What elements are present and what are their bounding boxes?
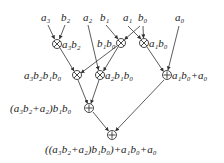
input-b2: b₂ <box>61 11 71 23</box>
edge-b0-m2 <box>125 26 141 40</box>
diagram-canvas: a₃ b₂ a₂ b₁ a₁ b₀ a₀ a₃b₂ b₁b₀ a₁b₀ a₃b₂… <box>0 0 224 163</box>
edge-s1-s3 <box>116 80 165 131</box>
edge-a3-m1 <box>48 25 55 39</box>
node-label-s3: ((a₃b₂+a₂)b₁b₀)+a₁b₀+a₀ <box>45 143 157 156</box>
input-a3: a₃ <box>41 11 51 23</box>
add-node-s1: a₁b₀+a₀ <box>163 69 208 81</box>
multiply-node-m4: a₃b₂b₁b₀ <box>24 69 82 81</box>
input-a0: a₀ <box>175 11 185 23</box>
add-node-s3: ((a₃b₂+a₂)b₁b₀)+a₁b₀+a₀ <box>45 131 157 157</box>
add-node-s2: (a₃b₂+a₂)b₁b₀ <box>10 102 94 115</box>
input-b1: b₁ <box>100 11 110 23</box>
node-label-s1: a₁b₀+a₀ <box>172 69 208 81</box>
edge-b2-m1 <box>60 25 66 39</box>
multiply-node-m5: a₂b₁b₀ <box>96 69 134 81</box>
edge-m4-s2 <box>78 80 88 104</box>
edge-a1-m3 <box>128 26 141 39</box>
node-label-m3: a₁b₀ <box>149 37 168 49</box>
edge-b0-m3 <box>143 26 144 38</box>
node-label-m1: a₃b₂ <box>62 38 81 50</box>
multiply-node-m2: b₁b₀ <box>97 37 126 49</box>
edge-s2-s3 <box>93 112 109 131</box>
input-a2: a₂ <box>83 11 93 23</box>
input-b0: b₀ <box>138 11 148 23</box>
expression-tree-diagram: a₃ b₂ a₂ b₁ a₁ b₀ a₀ a₃b₂ b₁b₀ a₁b₀ a₃b₂… <box>0 0 224 163</box>
node-label-m5: a₂b₁b₀ <box>105 69 133 81</box>
edge-a0-s1 <box>168 26 179 70</box>
node-label-s2: (a₃b₂+a₂)b₁b₀ <box>10 102 72 115</box>
edge-m3-s1 <box>147 47 164 72</box>
edge-m5-s2 <box>91 80 99 104</box>
input-a1: a₁ <box>123 11 133 23</box>
node-label-m2: b₁b₀ <box>97 37 116 49</box>
input-labels: a₃ b₂ a₂ b₁ a₁ b₀ a₀ <box>41 11 185 23</box>
multiply-node-m3: a₁b₀ <box>140 37 168 49</box>
node-label-m4: a₃b₂b₁b₀ <box>24 69 61 81</box>
edge-m1-m4 <box>60 48 74 71</box>
multiply-node-m1: a₃b₂ <box>53 38 81 50</box>
